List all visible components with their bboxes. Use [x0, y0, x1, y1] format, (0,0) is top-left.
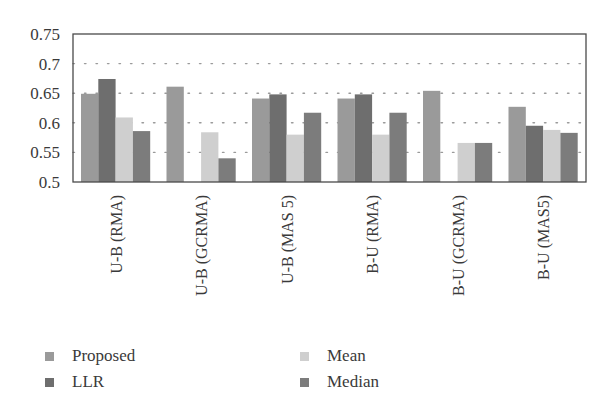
y-tick-label: 0.6 [39, 114, 60, 133]
bar-median-5 [560, 133, 577, 182]
bar-mean-5 [543, 130, 560, 182]
legend-swatch-proposed [45, 352, 54, 361]
legend-label-proposed: Proposed [72, 346, 135, 366]
legend-label-llr: LLR [72, 372, 104, 392]
x-category-label: U-B (RMA) [108, 195, 126, 274]
bar-mean-4 [458, 143, 475, 182]
x-category-label: B-U (RMA) [364, 195, 382, 274]
bar-mean-0 [116, 117, 133, 182]
legend-label-median: Median [327, 372, 379, 392]
y-tick-label: 0.7 [39, 55, 61, 74]
legend-item-llr: LLR [45, 372, 104, 392]
x-category-label: U-B (MAS 5) [279, 195, 297, 284]
bar-median-4 [475, 143, 492, 182]
bar-proposed-0 [81, 94, 98, 182]
y-axis-ticks: 0.50.550.60.650.70.75 [30, 25, 60, 192]
legend-swatch-median [300, 378, 309, 387]
y-tick-label: 0.75 [30, 25, 60, 44]
bar-median-3 [389, 113, 406, 182]
legend-swatch-llr [45, 378, 54, 387]
legend-item-median: Median [300, 372, 379, 392]
bar-mean-2 [287, 135, 304, 182]
bar-median-2 [304, 113, 321, 182]
x-category-label: U-B (GCRMA) [193, 195, 211, 296]
legend-item-mean: Mean [300, 346, 366, 366]
bar-proposed-4 [423, 91, 440, 182]
bar-llr-5 [526, 126, 543, 182]
y-tick-label: 0.5 [39, 173, 60, 192]
x-category-label: B-U (GCRMA) [450, 195, 468, 296]
bar-mean-1 [201, 132, 218, 182]
bar-proposed-1 [167, 87, 184, 182]
bars [81, 79, 578, 182]
bar-median-0 [133, 131, 150, 182]
bar-llr-0 [98, 79, 115, 182]
y-tick-label: 0.65 [30, 84, 60, 103]
legend-swatch-mean [300, 352, 309, 361]
bar-mean-3 [372, 135, 389, 182]
bar-proposed-3 [338, 99, 355, 182]
bar-llr-2 [269, 94, 286, 182]
bar-proposed-5 [509, 107, 526, 182]
y-tick-label: 0.55 [30, 143, 60, 162]
legend-label-mean: Mean [327, 346, 366, 366]
legend-item-proposed: Proposed [45, 346, 135, 366]
x-axis-categories: U-B (RMA)U-B (GCRMA)U-B (MAS 5)B-U (RMA)… [108, 195, 554, 296]
bar-median-1 [218, 158, 235, 182]
bar-proposed-2 [252, 99, 269, 182]
bar-llr-3 [355, 94, 372, 182]
x-category-label: B-U (MAS5) [535, 195, 553, 280]
